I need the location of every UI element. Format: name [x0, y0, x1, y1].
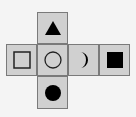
face-left [6, 44, 37, 76]
face-top [37, 12, 68, 44]
face-bottom [37, 76, 68, 109]
face-far-right [99, 44, 130, 76]
filled-circle-icon [44, 84, 62, 102]
face-center [37, 44, 68, 76]
hollow-circle-icon [44, 51, 62, 69]
hollow-square-icon [13, 51, 31, 69]
filled-square-icon [107, 52, 123, 68]
face-right [68, 44, 99, 76]
filled-triangle-icon [44, 20, 62, 36]
crescent-icon [77, 51, 91, 69]
